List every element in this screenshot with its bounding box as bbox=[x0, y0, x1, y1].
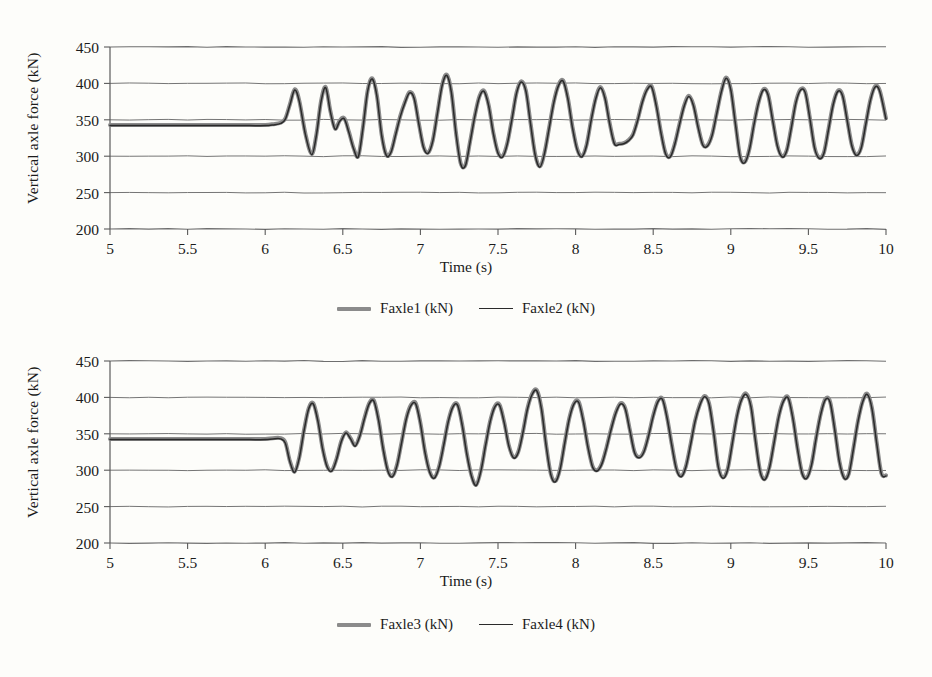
y-tick-label: 350 bbox=[76, 426, 100, 443]
legend-line-swatch-faxle4 bbox=[479, 624, 513, 626]
chart-panel-2: Vertical axle force (kN) 200250300350400… bbox=[0, 314, 932, 677]
legend-label-faxle3: Faxle3 (kN) bbox=[380, 616, 453, 633]
x-tick-label: 9.5 bbox=[799, 554, 819, 571]
legend-line-swatch-faxle2 bbox=[479, 308, 513, 310]
x-tick-label: 9 bbox=[727, 554, 735, 571]
y-tick-label: 400 bbox=[76, 389, 100, 406]
x-tick-label: 9.5 bbox=[799, 240, 819, 257]
legend-entry-faxle4[interactable]: Faxle4 (kN) bbox=[479, 616, 595, 633]
x-tick-label: 5.5 bbox=[178, 554, 198, 571]
x-tick-label: 8 bbox=[572, 240, 580, 257]
x-tick-label: 5.5 bbox=[178, 240, 198, 257]
x-axis-label-chart-2: Time (s) bbox=[0, 572, 932, 590]
x-tick-label: 7 bbox=[417, 554, 425, 571]
x-tick-label: 8.5 bbox=[644, 240, 664, 257]
x-tick-label: 7.5 bbox=[488, 240, 508, 257]
x-tick-label: 6.5 bbox=[333, 554, 353, 571]
x-tick-label: 8.5 bbox=[644, 554, 664, 571]
legend-chart-2: Faxle3 (kN) Faxle4 (kN) bbox=[0, 616, 932, 633]
chart-panel-1: Vertical axle force (kN) 200250300350400… bbox=[0, 0, 932, 338]
plot-area-chart-2: 20025030035040045055.566.577.588.599.510 bbox=[0, 314, 932, 604]
y-tick-label: 200 bbox=[76, 221, 100, 238]
y-tick-label: 300 bbox=[76, 148, 100, 165]
legend-line-swatch-faxle1 bbox=[337, 307, 371, 311]
y-tick-label: 300 bbox=[76, 462, 100, 479]
x-tick-label: 9 bbox=[727, 240, 735, 257]
legend-label-faxle4: Faxle4 (kN) bbox=[522, 616, 595, 633]
figure-page: Vertical axle force (kN) 200250300350400… bbox=[0, 0, 932, 677]
y-tick-label: 350 bbox=[76, 112, 100, 129]
x-tick-label: 10 bbox=[878, 240, 894, 257]
y-tick-label: 250 bbox=[76, 499, 100, 516]
x-tick-label: 5 bbox=[106, 240, 114, 257]
x-tick-label: 8 bbox=[572, 554, 580, 571]
x-tick-label: 7.5 bbox=[488, 554, 508, 571]
data-line-faxle2 bbox=[110, 75, 886, 168]
x-tick-label: 5 bbox=[106, 554, 114, 571]
x-tick-label: 6 bbox=[261, 554, 269, 571]
x-tick-label: 10 bbox=[878, 554, 894, 571]
y-tick-label: 400 bbox=[76, 75, 100, 92]
x-tick-label: 7 bbox=[417, 240, 425, 257]
x-tick-label: 6.5 bbox=[333, 240, 353, 257]
legend-entry-faxle3[interactable]: Faxle3 (kN) bbox=[337, 616, 453, 633]
y-tick-label: 200 bbox=[76, 535, 100, 552]
plot-area-chart-1: 20025030035040045055.566.577.588.599.510 bbox=[0, 0, 932, 290]
y-tick-label: 450 bbox=[76, 353, 100, 370]
y-tick-label: 450 bbox=[76, 39, 100, 56]
x-axis-label-chart-1: Time (s) bbox=[0, 258, 932, 276]
x-tick-label: 6 bbox=[261, 240, 269, 257]
y-tick-label: 250 bbox=[76, 185, 100, 202]
legend-line-swatch-faxle3 bbox=[337, 623, 371, 627]
